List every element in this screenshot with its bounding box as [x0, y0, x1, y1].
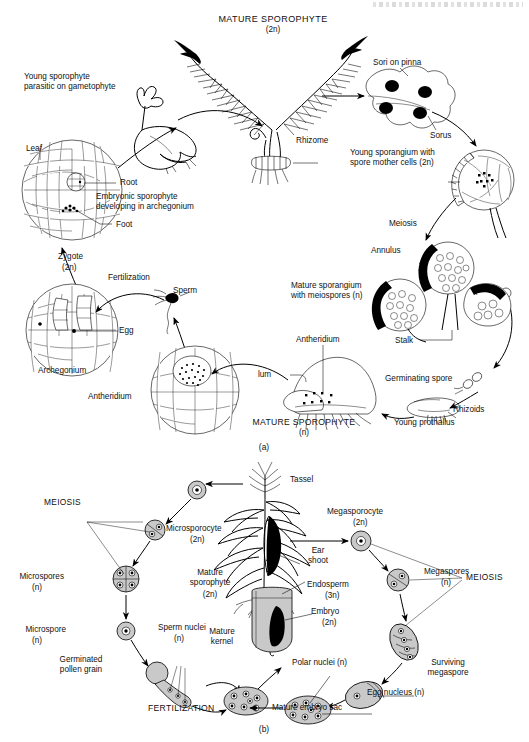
- arrow-dyad-to-megaspores: [400, 594, 406, 621]
- label-lum: lum: [258, 370, 271, 380]
- label-surviving-megaspore: Surviving megaspore: [412, 658, 484, 678]
- arrow-dyad-to-tetrad: [133, 541, 150, 566]
- label-young-prothallus: Young prothallus: [394, 418, 455, 428]
- megasporocyte-cell: [351, 531, 371, 551]
- fern-mature-sporophyte-drawing: [174, 36, 368, 185]
- label-leaf: Leaf: [26, 144, 42, 154]
- arrow-microsporocyte-to-dyad: [166, 499, 191, 524]
- label-meiosis-left: MEIOSIS: [44, 497, 81, 507]
- label-microspore-ploidy: (n): [16, 636, 58, 646]
- label-endosperm-ploidy: (3n): [325, 591, 340, 601]
- arrow-zygote-to-kernel: [258, 668, 281, 689]
- arrow-microspore-to-pollen: [131, 640, 148, 666]
- figure-page: MATURE SPOROPHYTE (2n) Rhizome Young spo…: [0, 0, 529, 742]
- label-zygote: Zygote: [58, 252, 83, 262]
- fern-sori-on-pinna-drawing: [366, 66, 455, 130]
- label-fertilization-b: FERTILIZATION: [148, 703, 215, 713]
- meiosis-bracket-left: [87, 522, 150, 574]
- label-megasporocyte-ploidy: (2n): [353, 518, 368, 528]
- label-microspores: Microspores: [2, 572, 64, 582]
- label-ear-shoot: Ear shoot: [300, 546, 336, 566]
- mature-kernel-drawing: [252, 582, 312, 656]
- label-foot: Foot: [116, 220, 132, 230]
- arrow-antheridium-to-sperm: [174, 318, 186, 352]
- label-meiosis-right: MEIOSIS: [466, 572, 503, 582]
- fern-embryonic-sporophyte-section: [22, 140, 122, 240]
- fern-life-cycle-illustration: [0, 0, 529, 460]
- label-young-sporangium: Young sporangium with spore mother cells…: [350, 148, 435, 168]
- label-root: Root: [120, 178, 137, 188]
- label-stalk: Stalk: [395, 336, 413, 346]
- label-megaspores: Megaspores: [424, 567, 469, 577]
- microspore-dyad-cell: [145, 520, 165, 540]
- label-megasporocyte: Megasporocyte: [327, 507, 383, 517]
- microspores-tetrad-cell: [113, 566, 139, 592]
- fern-germinating-spore-drawing: [454, 371, 483, 394]
- label-mature-sporangium: Mature sporangium with meiospores (n): [291, 281, 362, 301]
- label-rhizoids: Rhizoids: [453, 405, 484, 415]
- label-endosperm: Endosperm: [307, 580, 349, 590]
- label-zygote-ploidy: (2n): [62, 263, 77, 273]
- label-mature-gametophyte-ploidy: (n): [244, 428, 364, 438]
- label-sperm-nuclei-ploidy: (n): [174, 634, 184, 644]
- label-young-sporophyte: Young sporophyte parasitic on gametophyt…: [24, 72, 115, 92]
- label-microsporocyte: Microsporocyte: [166, 524, 222, 534]
- label-germinated-pollen-grain: Germinated pollen grain: [36, 655, 126, 675]
- label-antheridium-detail: Antheridium: [88, 392, 132, 402]
- label-mature-sporophyte: MATURE SPOROPHYTE: [203, 14, 343, 24]
- label-microsporocyte-ploidy: (2n): [190, 535, 205, 545]
- label-egg: Egg: [119, 326, 134, 336]
- label-rhizome: Rhizome: [296, 136, 328, 146]
- germinated-pollen-grain-drawing: [146, 662, 191, 708]
- fern-antheridium-section: [151, 346, 239, 434]
- label-sorus: Sorus: [430, 131, 451, 141]
- arrow-megasporocyte-to-dyad: [369, 550, 388, 571]
- label-antheridium-top: Antheridium: [296, 335, 340, 345]
- microspore-cell: [117, 622, 135, 640]
- fern-young-sporophyte-drawing: [134, 86, 196, 174]
- arrow-meiosis: [426, 198, 456, 240]
- label-embryonic-sporophyte: Embryonic sporophyte developing in arche…: [96, 192, 194, 212]
- arrow-megaspores-to-surviving: [382, 663, 402, 684]
- label-microspore: Microspore: [2, 625, 66, 635]
- figure-a-caption: (a): [234, 442, 294, 452]
- label-embryo-ploidy: (2n): [322, 618, 337, 628]
- label-archegonium: Archegonium: [38, 366, 86, 376]
- fern-sperm-drawing: [153, 290, 190, 334]
- label-mature-embryo-sac: Mature embryo sac: [272, 703, 342, 713]
- label-mature-gametophyte: MATURE SPOROPHYTE: [244, 417, 364, 427]
- fern-mature-sporangia-drawing: [372, 242, 511, 342]
- label-microspores-ploidy: (n): [16, 583, 58, 593]
- label-mature-sporophyte-b-ploidy: (2n): [172, 590, 248, 600]
- arrow-young-to-leaf: [118, 128, 176, 168]
- label-mature-kernel: Mature kernel: [196, 627, 248, 647]
- label-tassel: Tassel: [290, 475, 313, 485]
- fern-young-sporangium-drawing: [448, 150, 514, 238]
- figure-b-caption: (b): [234, 724, 294, 734]
- label-sori-on-pinna: Sori on pinna: [373, 58, 421, 68]
- microsporocyte-cell: [188, 481, 206, 499]
- megaspore-dyad-cell: [387, 569, 409, 591]
- label-embryo: Embryo: [311, 607, 339, 617]
- label-annulus: Annulus: [371, 246, 401, 256]
- label-meiosis: Meiosis: [389, 219, 417, 229]
- label-mature-sporophyte-b: Mature sporophyte: [172, 568, 248, 588]
- label-polar-nuclei: Polar nuclei (n): [292, 658, 347, 668]
- label-sperm: Sperm: [173, 286, 197, 296]
- label-fertilization: Fertilization: [108, 273, 150, 283]
- fertilized-embryo-sac-cell: [224, 687, 268, 715]
- label-megaspores-ploidy: (n): [441, 578, 451, 588]
- label-mature-sporophyte-ploidy: (2n): [203, 25, 343, 35]
- label-germinating-spore: Germinating spore: [385, 374, 452, 384]
- fern-archegonium-section: [26, 284, 118, 376]
- label-egg-nucleus: Egg nucleus (n): [367, 688, 424, 698]
